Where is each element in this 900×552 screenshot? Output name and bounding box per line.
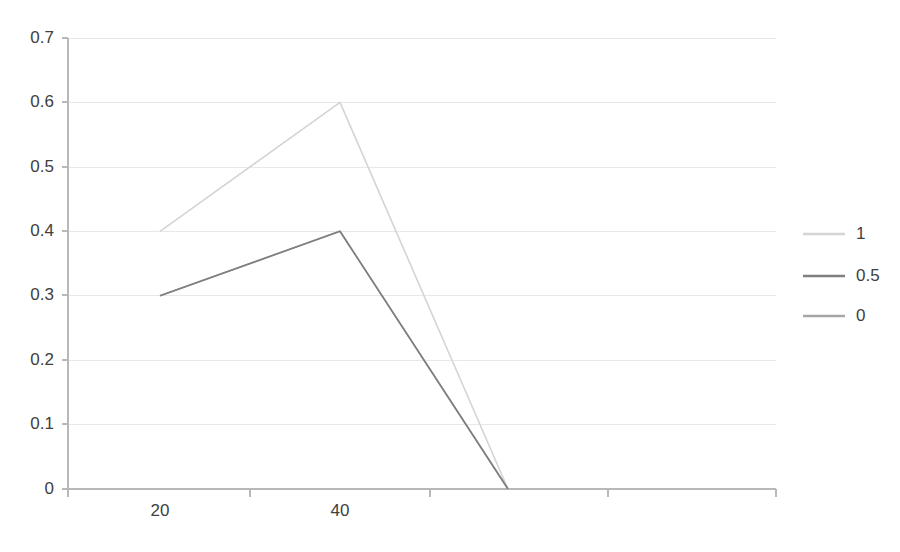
- y-axis-label-0.1: 0.1: [30, 414, 54, 433]
- y-axis-label-0.4: 0.4: [30, 221, 54, 240]
- gridlines: [68, 38, 776, 424]
- axes: [68, 38, 776, 489]
- x-axis-labels: 20 40: [151, 501, 350, 520]
- x-axis-label-40: 40: [331, 501, 350, 520]
- y-axis-label-0.5: 0.5: [30, 157, 54, 176]
- x-axis-label-20: 20: [151, 501, 170, 520]
- legend-label-1: 1: [856, 224, 865, 243]
- legend-item-1[interactable]: 1: [803, 224, 865, 243]
- line-chart: 0.7 0.6 0.5 0.4 0.3 0.2 0.1 0 20 40 1: [0, 0, 900, 552]
- chart-legend: 1 0.5 0: [803, 224, 880, 325]
- x-axis-ticks: [68, 489, 776, 497]
- y-axis-ticks: [62, 38, 68, 489]
- y-axis-label-0: 0: [45, 479, 54, 498]
- y-axis-label-0.7: 0.7: [30, 28, 54, 47]
- chart-canvas: 0.7 0.6 0.5 0.4 0.3 0.2 0.1 0 20 40 1: [0, 0, 900, 552]
- legend-item-0[interactable]: 0: [803, 306, 865, 325]
- y-axis-labels: 0.7 0.6 0.5 0.4 0.3 0.2 0.1 0: [30, 28, 54, 498]
- legend-label-0: 0: [856, 306, 865, 325]
- legend-label-0.5: 0.5: [856, 266, 880, 285]
- legend-item-0.5[interactable]: 0.5: [803, 266, 880, 285]
- y-axis-label-0.3: 0.3: [30, 285, 54, 304]
- y-axis-label-0.2: 0.2: [30, 350, 54, 369]
- data-series: [160, 102, 508, 489]
- series-line-1: [160, 102, 508, 489]
- y-axis-label-0.6: 0.6: [30, 92, 54, 111]
